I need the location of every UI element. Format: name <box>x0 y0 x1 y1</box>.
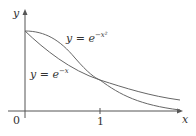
y-axis <box>23 9 28 118</box>
label-exp-neg-x-squared: y = e−x² <box>65 31 108 45</box>
x-axis-label: x <box>182 113 189 126</box>
label-exp-neg-x: y = e−x <box>29 67 69 81</box>
graph: y x 0 1 y = e−x² y = e−x <box>0 0 196 136</box>
curve-exp-neg-x <box>25 31 180 100</box>
y-axis-label: y <box>12 7 20 20</box>
x-tick-label-1: 1 <box>97 115 104 128</box>
origin-label: 0 <box>13 114 20 127</box>
x-axis <box>8 109 183 114</box>
